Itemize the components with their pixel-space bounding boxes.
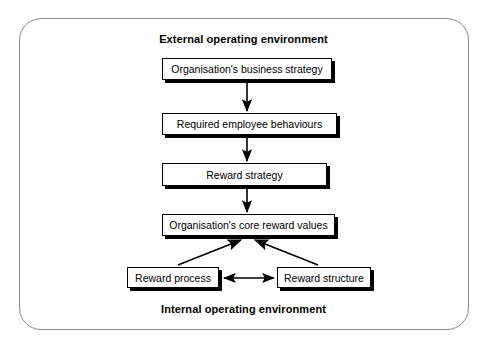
internal-environment-label: Internal operating environment <box>0 303 487 315</box>
node-core-reward-values-label: Organisation's core reward values <box>169 219 327 231</box>
node-reward-strategy: Reward strategy <box>162 163 327 186</box>
node-core-reward-values: Organisation's core reward values <box>162 214 335 236</box>
external-environment-label: External operating environment <box>0 33 487 45</box>
node-business-strategy-label: Organisation's business strategy <box>171 63 322 75</box>
node-reward-strategy-label: Reward strategy <box>206 169 282 181</box>
node-reward-process: Reward process <box>127 267 219 288</box>
node-employee-behaviours: Required employee behaviours <box>162 113 337 135</box>
node-employee-behaviours-label: Required employee behaviours <box>177 118 322 130</box>
diagram-canvas: External operating environment Organisat… <box>0 0 487 347</box>
node-reward-structure-label: Reward structure <box>284 272 364 284</box>
node-business-strategy: Organisation's business strategy <box>162 58 332 80</box>
node-reward-structure: Reward structure <box>277 267 371 288</box>
node-reward-process-label: Reward process <box>135 272 211 284</box>
